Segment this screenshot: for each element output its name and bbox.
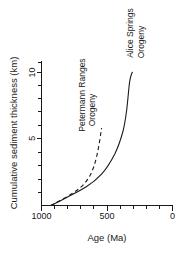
x-tick-label-500: 500 <box>99 211 114 221</box>
chart-plot-area: 1000 500 0 10 5 Cumulative sediment thic… <box>0 0 184 253</box>
annotation-alice-line1: Alice Springs <box>125 8 135 58</box>
annotation-petermann-line1: Petermann Ranges <box>77 58 87 131</box>
x-tick-label-1000: 1000 <box>31 211 51 221</box>
annotation-petermann-line2: Orogeny <box>87 93 97 126</box>
x-axis-title: Age (Ma) <box>87 232 126 243</box>
annotation-alice-line2: Orogeny <box>136 25 146 58</box>
y-tick-label-10: 10 <box>27 67 37 77</box>
x-axis-major-ticks <box>42 206 173 211</box>
chart-figure: 1000 500 0 10 5 Cumulative sediment thic… <box>0 0 184 253</box>
x-tick-label-0: 0 <box>170 211 175 221</box>
annotation-alice-springs-orogeny: Alice Springs Orogeny <box>125 8 146 58</box>
y-axis-major-ticks <box>37 73 42 139</box>
y-axis-minor-ticks <box>38 63 42 193</box>
series-petermann-ranges-orogeny <box>51 128 102 206</box>
annotation-petermann-ranges-orogeny: Petermann Ranges Orogeny <box>77 58 97 131</box>
y-axis-title: Cumulative sediment thickness (km) <box>8 57 19 210</box>
series-alice-springs-orogeny <box>51 72 133 205</box>
y-tick-label-5: 5 <box>27 136 37 141</box>
